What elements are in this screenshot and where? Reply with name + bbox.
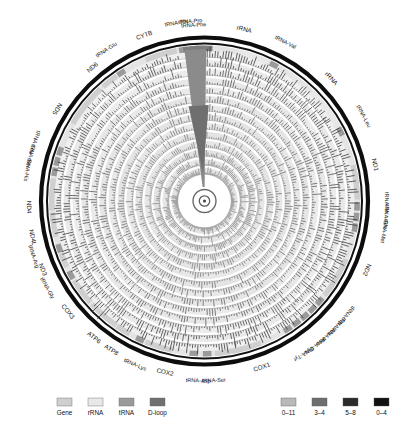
outer-label-nd2: ND2 bbox=[361, 263, 373, 278]
legend-swatch-feature-0 bbox=[57, 398, 72, 406]
outer-label-cox1: COX1 bbox=[252, 360, 271, 372]
legend-label-feature-1: rRNA bbox=[88, 409, 104, 416]
legend-swatch-depth-2 bbox=[343, 398, 358, 406]
outer-label-nd1: ND1 bbox=[371, 158, 381, 172]
outer-label-atp8: ATP8 bbox=[103, 343, 120, 357]
outer-label-cox2: COX2 bbox=[156, 366, 175, 377]
outer-label-trna-lys: tRNA-Lys bbox=[123, 357, 147, 372]
outer-label-trna-gly: tRNA-Gly bbox=[39, 276, 56, 300]
legend-label-depth-0: 0–11 bbox=[282, 409, 296, 416]
outer-label-atp6: ATP6 bbox=[86, 330, 103, 345]
outer-label-nd5: ND5 bbox=[51, 102, 64, 117]
outer-label-trna-met: tRNA-Met bbox=[379, 219, 389, 245]
outer-label-trna-arg: tRNA-Arg bbox=[27, 244, 40, 269]
circular-genome-plot: tRNA-PherRNAtRNA-ValrRNAtRNA-LeuND1tRNA-… bbox=[0, 0, 409, 429]
outer-label-cytb: CYTB bbox=[135, 29, 153, 41]
legend-swatch-feature-3 bbox=[150, 398, 165, 406]
outer-label-nd6: ND6 bbox=[85, 60, 100, 74]
legend-swatch-depth-3 bbox=[374, 398, 389, 406]
legend-swatch-feature-2 bbox=[119, 398, 134, 406]
outer-label-nd4: ND4 bbox=[26, 201, 33, 214]
figure-canvas: tRNA-PherRNAtRNA-ValrRNAtRNA-LeuND1tRNA-… bbox=[0, 0, 409, 429]
legend-swatch-depth-1 bbox=[312, 398, 327, 406]
legend-swatch-feature-1 bbox=[88, 398, 103, 406]
legend-label-depth-3: 0–4 bbox=[376, 409, 387, 416]
hub-dot bbox=[203, 199, 206, 202]
outer-label-cox3: COX3 bbox=[60, 302, 77, 320]
outer-label-nd4l: ND4L bbox=[28, 229, 38, 247]
outer-label-trna-leu-1: tRNA-Leu bbox=[355, 104, 372, 129]
legend: GenerRNAtRNAD-loop0–113–45–80–4 bbox=[57, 398, 389, 417]
legend-label-depth-1: 3–4 bbox=[314, 409, 325, 416]
outer-label-rrna-2: rRNA bbox=[324, 70, 340, 87]
outer-label-trna-val: tRNA-Val bbox=[274, 34, 297, 50]
outer-label-trna-leu-2: tRNA-Leu bbox=[28, 130, 42, 155]
legend-label-depth-2: 5–8 bbox=[345, 409, 356, 416]
legend-label-feature-3: D-loop bbox=[148, 409, 167, 417]
outer-label-rrna-1: rRNA bbox=[236, 24, 253, 34]
legend-label-feature-2: tRNA bbox=[119, 409, 135, 416]
outer-label-trna-tyr: tRNA-Tyr bbox=[293, 345, 316, 363]
outer-label-trna-asp: tRNA-Asp bbox=[186, 377, 211, 384]
legend-label-feature-0: Gene bbox=[57, 409, 73, 416]
legend-swatch-depth-0 bbox=[281, 398, 296, 406]
outer-label-trna-glu: tRNA-Glu bbox=[95, 41, 118, 59]
